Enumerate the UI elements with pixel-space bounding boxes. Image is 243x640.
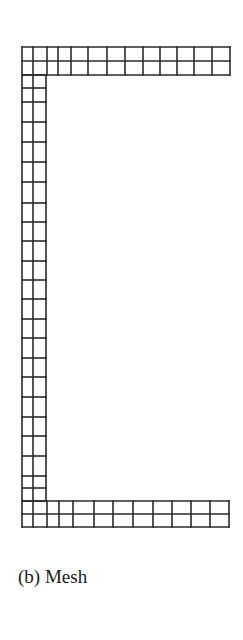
- figure-caption: (b) Mesh: [18, 566, 87, 588]
- web-mesh: [22, 75, 46, 501]
- top-flange-mesh: [22, 47, 230, 75]
- mesh-diagram: [0, 0, 243, 640]
- bottom-flange-mesh: [22, 501, 229, 527]
